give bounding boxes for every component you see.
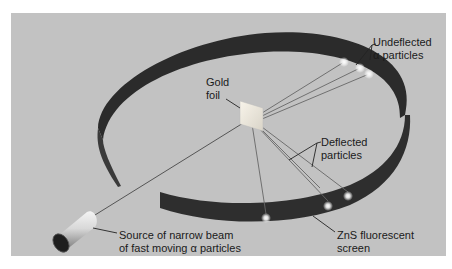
source-label-line2: of fast moving α particles	[119, 242, 241, 255]
gold-foil-label-line2: foil	[206, 89, 229, 102]
deflected-label-line1: Deflected	[321, 136, 367, 149]
undeflected-trajectories	[262, 62, 369, 119]
fluorescent-screen-front	[160, 115, 410, 222]
undeflected-label-line1: Undeflected	[373, 36, 432, 49]
alpha-source-cylinder	[50, 211, 97, 255]
screen-label-line1: ZnS fluorescent	[337, 229, 414, 242]
gold-foil-label-line1: Gold	[206, 76, 229, 89]
screen-label-line2: screen	[337, 242, 414, 255]
undeflected-label-line2: α particles	[373, 49, 432, 62]
deflected-label-line2: particles	[321, 149, 367, 162]
gold-foil	[240, 101, 263, 131]
deflected-label: Deflected particles	[321, 136, 367, 162]
screen-label: ZnS fluorescent screen	[337, 229, 414, 255]
undeflected-label: Undeflected α particles	[373, 36, 432, 62]
gold-foil-label: Gold foil	[206, 76, 229, 102]
source-label: Source of narrow beam of fast moving α p…	[119, 229, 241, 255]
source-label-line1: Source of narrow beam	[119, 229, 241, 242]
